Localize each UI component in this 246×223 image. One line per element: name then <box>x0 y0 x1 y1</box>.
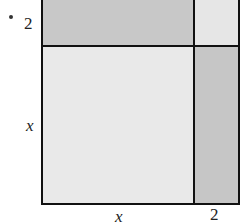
horizontal-divider <box>42 45 239 47</box>
bullet-dot <box>9 15 13 19</box>
label-left-bottom: x <box>26 117 34 134</box>
label-bottom-left: x <box>115 208 123 223</box>
label-bottom-right: 2 <box>210 206 219 223</box>
outer-border <box>41 0 240 205</box>
vertical-divider <box>193 0 195 205</box>
label-left-top: 2 <box>24 15 33 32</box>
